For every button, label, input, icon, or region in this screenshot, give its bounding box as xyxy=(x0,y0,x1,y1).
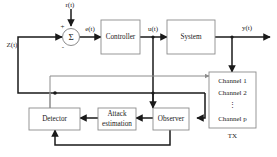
channel-ellipsis: ⋮ xyxy=(229,101,236,109)
signal-label-control: u(t) xyxy=(148,25,159,33)
junction-dot-control xyxy=(151,35,154,38)
signal-label-feedback: Z(t) xyxy=(7,41,19,49)
signal-label-error: e(t) xyxy=(85,25,95,33)
junction-dot-bus-observer xyxy=(151,91,154,94)
summing-junction-minus: - xyxy=(62,43,65,51)
junction-dot-output xyxy=(230,35,233,38)
block-detector-label: Detector xyxy=(42,115,67,123)
block-observer-label: Observer xyxy=(158,115,185,123)
block-controller-label: Controller xyxy=(106,33,136,41)
signal-label-reference: r(t) xyxy=(66,1,76,9)
summing-junction-plus: + xyxy=(61,23,65,31)
channel-item-1: Channel 1 xyxy=(218,77,247,85)
block-system-label: System xyxy=(180,33,202,41)
summing-junction-symbol: Σ xyxy=(68,32,73,42)
wire-tx-to-observer xyxy=(197,93,205,118)
signal-label-output: y(t) xyxy=(242,24,253,32)
block-tx-caption: TX xyxy=(228,132,237,140)
junction-dot-feedback xyxy=(53,91,57,95)
block-diagram-canvas: Σ + - Controller System Channel 1 Channe… xyxy=(0,0,277,157)
block-attack-estimation-label-line1: Attack xyxy=(107,110,127,118)
block-attack-estimation-label-line2: estimation xyxy=(102,120,132,128)
wire-feedback-z xyxy=(18,37,62,93)
wire-observer-to-detector-return xyxy=(55,130,170,145)
block-diagram-svg: Σ + - Controller System Channel 1 Channe… xyxy=(0,0,277,157)
channel-item-p: Channel p xyxy=(218,115,247,123)
channel-item-2: Channel 2 xyxy=(218,89,247,97)
